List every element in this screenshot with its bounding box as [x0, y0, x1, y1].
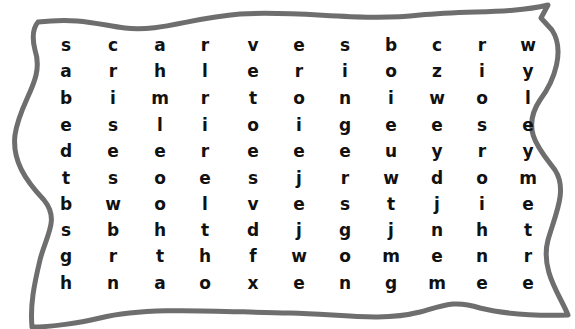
grid-letter: d — [422, 166, 452, 190]
grid-letter: r — [190, 33, 220, 57]
grid-letter: n — [98, 271, 128, 295]
grid-letter: s — [330, 192, 360, 216]
grid-letter: e — [422, 244, 452, 268]
grid-letter: e — [513, 192, 543, 216]
grid-letter: b — [51, 86, 81, 110]
grid-letter: u — [376, 139, 406, 163]
grid-letter: n — [467, 244, 497, 268]
grid-letter: d — [238, 218, 268, 242]
grid-letter: s — [238, 166, 268, 190]
grid-letter: t — [51, 166, 81, 190]
grid-letter: w — [422, 86, 452, 110]
grid-letter: y — [513, 139, 543, 163]
grid-letter: l — [513, 86, 543, 110]
grid-letter: o — [467, 166, 497, 190]
grid-letter: o — [145, 192, 175, 216]
grid-letter: o — [467, 86, 497, 110]
grid-letter: i — [467, 59, 497, 83]
grid-letter: e — [376, 113, 406, 137]
grid-letter: i — [98, 86, 128, 110]
grid-letter: r — [513, 244, 543, 268]
grid-letter: t — [190, 218, 220, 242]
grid-letter: e — [284, 192, 314, 216]
grid-letter: o — [330, 244, 360, 268]
grid-letter: s — [98, 113, 128, 137]
letter-grid: scarvesbcrwarhlerioziybimrtoniwoleslioig… — [0, 0, 575, 329]
grid-letter: g — [330, 218, 360, 242]
grid-letter: j — [284, 218, 314, 242]
grid-letter: i — [284, 113, 314, 137]
grid-letter: m — [145, 86, 175, 110]
grid-letter: e — [422, 113, 452, 137]
grid-letter: h — [145, 59, 175, 83]
grid-letter: y — [513, 59, 543, 83]
grid-letter: m — [422, 271, 452, 295]
grid-letter: g — [376, 271, 406, 295]
grid-letter: i — [376, 86, 406, 110]
grid-letter: l — [145, 113, 175, 137]
grid-letter: e — [51, 113, 81, 137]
grid-letter: e — [238, 59, 268, 83]
grid-letter: h — [190, 244, 220, 268]
grid-letter: r — [467, 33, 497, 57]
grid-letter: i — [467, 192, 497, 216]
grid-letter: s — [51, 218, 81, 242]
grid-letter: h — [467, 218, 497, 242]
grid-letter: t — [376, 192, 406, 216]
grid-letter: y — [422, 139, 452, 163]
grid-letter: e — [145, 139, 175, 163]
grid-letter: o — [190, 271, 220, 295]
grid-letter: e — [238, 139, 268, 163]
grid-letter: s — [51, 33, 81, 57]
grid-letter: a — [145, 33, 175, 57]
grid-letter: n — [330, 271, 360, 295]
grid-letter: w — [376, 166, 406, 190]
grid-letter: r — [98, 59, 128, 83]
grid-letter: e — [330, 139, 360, 163]
grid-letter: e — [513, 113, 543, 137]
grid-letter: e — [513, 271, 543, 295]
grid-letter: e — [284, 33, 314, 57]
grid-letter: e — [284, 139, 314, 163]
grid-letter: c — [98, 33, 128, 57]
grid-letter: t — [145, 244, 175, 268]
grid-letter: n — [422, 218, 452, 242]
grid-letter: e — [98, 139, 128, 163]
grid-letter: i — [190, 113, 220, 137]
grid-letter: b — [51, 192, 81, 216]
grid-letter: o — [238, 113, 268, 137]
grid-letter: a — [51, 59, 81, 83]
grid-letter: m — [376, 244, 406, 268]
grid-letter: z — [422, 59, 452, 83]
grid-letter: s — [330, 33, 360, 57]
grid-letter: x — [238, 271, 268, 295]
grid-letter: j — [376, 218, 406, 242]
grid-letter: e — [467, 271, 497, 295]
grid-letter: l — [190, 192, 220, 216]
grid-letter: v — [238, 33, 268, 57]
grid-letter: l — [190, 59, 220, 83]
grid-letter: h — [51, 271, 81, 295]
grid-letter: d — [51, 139, 81, 163]
grid-letter: n — [330, 86, 360, 110]
grid-letter: r — [284, 59, 314, 83]
grid-letter: f — [238, 244, 268, 268]
grid-letter: r — [98, 244, 128, 268]
grid-letter: b — [98, 218, 128, 242]
grid-letter: r — [190, 139, 220, 163]
grid-letter: o — [145, 166, 175, 190]
grid-letter: g — [51, 244, 81, 268]
grid-letter: v — [238, 192, 268, 216]
grid-letter: e — [190, 166, 220, 190]
grid-letter: w — [284, 244, 314, 268]
grid-letter: e — [284, 271, 314, 295]
grid-letter: h — [145, 218, 175, 242]
grid-letter: s — [98, 166, 128, 190]
grid-letter: r — [330, 166, 360, 190]
grid-letter: g — [330, 113, 360, 137]
grid-letter: j — [284, 166, 314, 190]
grid-letter: t — [238, 86, 268, 110]
grid-letter: w — [513, 33, 543, 57]
grid-letter: r — [467, 139, 497, 163]
grid-letter: r — [190, 86, 220, 110]
